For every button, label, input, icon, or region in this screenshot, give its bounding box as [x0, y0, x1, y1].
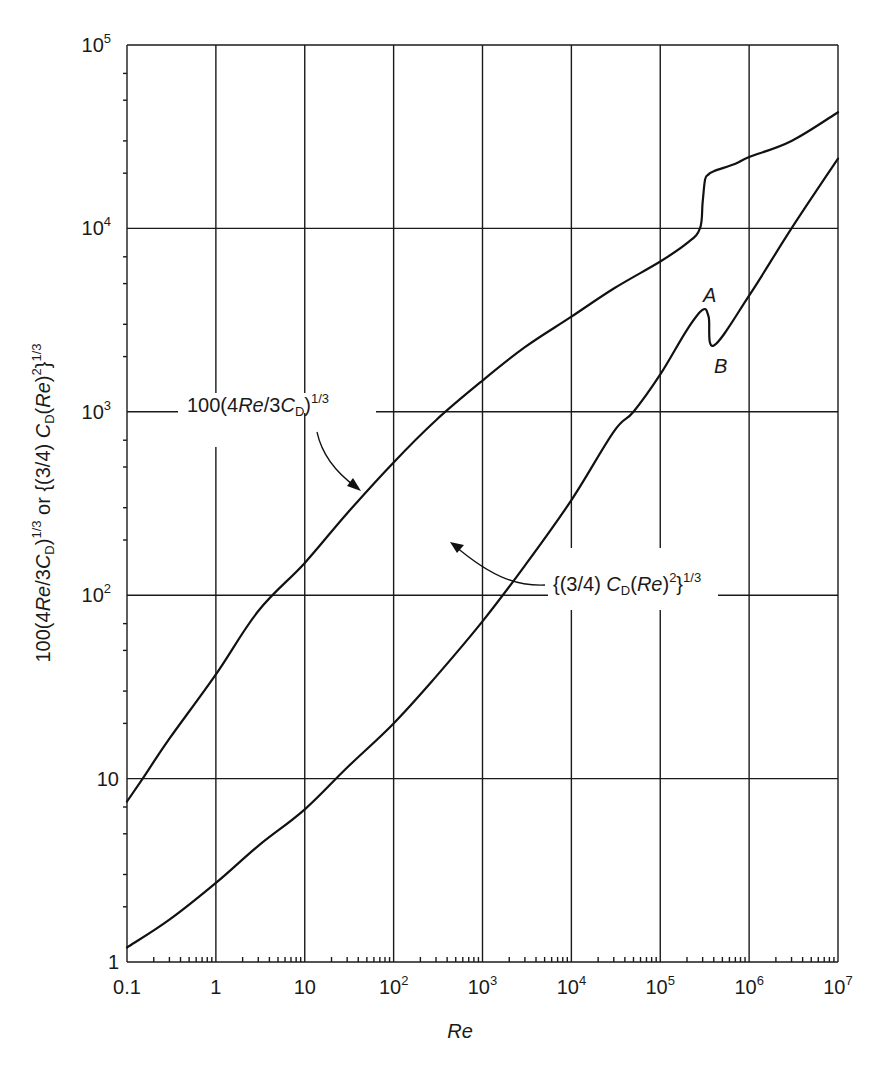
- point-b-label: B: [714, 355, 727, 377]
- upper-arrowhead-icon: [347, 478, 361, 491]
- x-tick-label: 1: [210, 976, 221, 998]
- y-axis-title: 100(4Re/3CD)1/3 or {(3/4) CD(Re)2}1/3: [29, 343, 57, 662]
- x-tick-label: 106: [734, 973, 763, 998]
- x-axis-title: Re: [447, 1020, 473, 1042]
- x-tick-label: 102: [379, 973, 408, 998]
- y-tick-label: 104: [82, 214, 111, 239]
- x-tick-label: 103: [468, 973, 497, 998]
- point-a-label: A: [702, 284, 716, 306]
- y-tick-label: 105: [82, 31, 111, 56]
- upper-curve-annotation: 100(4Re/3CD)1/3: [187, 391, 329, 419]
- y-tick-label: 1: [108, 951, 119, 973]
- lower-annotation-arrow: [455, 546, 545, 585]
- grid-lines: [127, 45, 838, 962]
- x-tick-label: 10: [294, 976, 316, 998]
- y-tick-label: 103: [82, 398, 111, 423]
- x-tick-label: 107: [823, 973, 852, 998]
- upper-annotation-arrow: [317, 432, 356, 487]
- x-tick-label: 104: [557, 973, 586, 998]
- x-tick-label: 0.1: [113, 976, 141, 998]
- x-axis-tick-labels: 0.1110102103104105106107: [113, 973, 853, 998]
- y-axis-tick-labels: 110102103104105: [82, 31, 119, 973]
- drag-chart: 100(4Re/3CD)1/3 {(3/4) CD(Re)2}1/3 A B 0…: [0, 0, 889, 1065]
- minor-ticks: [123, 73, 834, 962]
- y-tick-label: 10: [97, 768, 119, 790]
- y-tick-label: 102: [82, 581, 111, 606]
- x-tick-label: 105: [646, 973, 675, 998]
